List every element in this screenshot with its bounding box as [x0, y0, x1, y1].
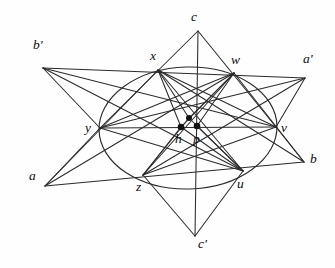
geometry-figure: b'ca'xwyvhpabzuc' [0, 0, 335, 268]
dot-h [178, 124, 185, 131]
segment-c-v [198, 31, 276, 127]
segment-a-w [45, 73, 234, 186]
point-label-b-prime: b' [33, 38, 43, 52]
point-label-c: c [191, 10, 197, 24]
point-label-y: y [85, 121, 91, 135]
point-label-v: v [281, 121, 287, 135]
point-label-w: w [231, 53, 240, 67]
dot-p [194, 123, 201, 130]
segment-cprime-u [195, 171, 243, 236]
point-label-p: p [193, 132, 200, 146]
point-label-u: u [237, 177, 244, 191]
segment-x-v [158, 70, 276, 127]
point-label-a: a [29, 169, 36, 183]
point-label-h: h [175, 132, 182, 146]
segment-a-b [45, 162, 304, 186]
dot-hub [186, 115, 192, 121]
segment-a-y [45, 128, 100, 186]
edges-layer [43, 31, 305, 236]
point-label-a-prime: a' [303, 52, 313, 66]
segment-bprime-y [43, 68, 100, 128]
point-label-b: b [310, 152, 317, 166]
point-label-z: z [136, 180, 141, 194]
segment-bprime-aprime [43, 68, 305, 78]
point-label-x: x [150, 49, 156, 63]
point-label-c-prime: c' [198, 237, 207, 251]
segment-bprime-u [43, 68, 243, 171]
